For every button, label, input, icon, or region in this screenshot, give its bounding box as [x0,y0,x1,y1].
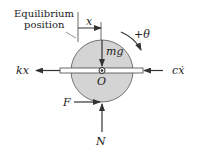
spring-force-label: kx [16,64,30,77]
weight-label: mg [106,45,123,58]
equilibrium-leader [66,32,76,38]
equilibrium-label-2: position [24,19,65,30]
equilibrium-label-1: Equilibrium [14,8,75,19]
normal-label: N [95,135,106,148]
friction-label: F [62,96,71,109]
center-label: O [97,75,106,88]
free-body-diagram: Equilibrium position x +θ mg O kx cẋ F N [0,0,198,153]
rotation-label: +θ [134,28,150,41]
damper-force-label: cẋ [172,64,185,77]
displacement-label: x [86,15,93,28]
